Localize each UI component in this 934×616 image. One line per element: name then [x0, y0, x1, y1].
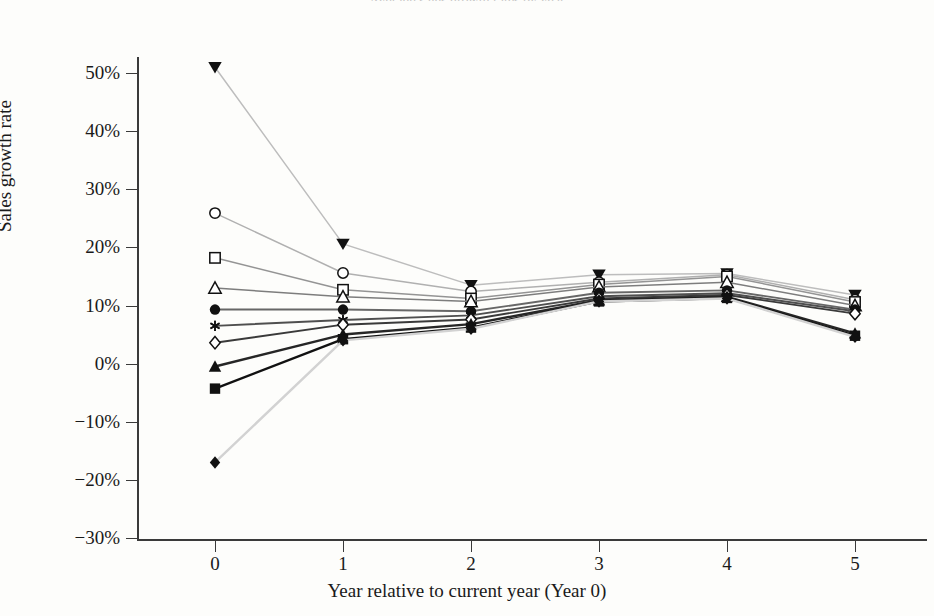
y-tick-label: 20% — [34, 236, 120, 258]
x-tick-label: 1 — [323, 553, 363, 575]
y-tick-mark — [126, 189, 137, 190]
y-tick-mark — [126, 422, 137, 423]
series-2 — [210, 208, 860, 305]
y-tick-label: −20% — [34, 469, 120, 491]
chart-canvas — [0, 0, 934, 616]
series-line — [215, 213, 855, 300]
y-tick-label: 40% — [34, 120, 120, 142]
y-tick-label: 30% — [34, 178, 120, 200]
y-axis-title: Sales growth rate — [0, 100, 16, 232]
x-tick-mark — [855, 541, 856, 552]
y-tick-mark — [126, 364, 137, 365]
x-tick-label: 3 — [579, 553, 619, 575]
x-tick-label: 4 — [707, 553, 747, 575]
x-tick-mark — [727, 541, 728, 552]
y-tick-mark — [126, 131, 137, 132]
series-line — [215, 67, 855, 295]
chart-figure: Average sales growth rates by year 50%40… — [0, 0, 934, 616]
x-tick-mark — [343, 541, 344, 552]
y-tick-mark — [126, 480, 137, 481]
x-tick-mark — [599, 541, 600, 552]
series-line — [215, 299, 855, 463]
x-tick-label: 2 — [451, 553, 491, 575]
y-tick-mark — [126, 247, 137, 248]
data-point-square-filled — [210, 383, 220, 393]
y-tick-label: −10% — [34, 411, 120, 433]
x-tick-label: 0 — [195, 553, 235, 575]
x-axis-title: Year relative to current year (Year 0) — [0, 580, 934, 602]
y-tick-mark — [126, 306, 137, 307]
x-tick-label: 5 — [835, 553, 875, 575]
x-tick-mark — [471, 541, 472, 552]
y-tick-label: −30% — [34, 527, 120, 549]
y-tick-label: 50% — [34, 62, 120, 84]
data-point-triangle-up-open — [209, 282, 221, 293]
y-axis-line — [137, 57, 139, 540]
y-tick-label: 10% — [34, 295, 120, 317]
y-tick-mark — [126, 73, 137, 74]
y-tick-label: 0% — [34, 353, 120, 375]
y-tick-mark — [126, 538, 137, 539]
series-1 — [208, 62, 861, 301]
series-10 — [210, 292, 860, 468]
series-layer — [208, 62, 861, 469]
x-tick-mark — [215, 541, 216, 552]
x-axis-line — [137, 539, 927, 541]
